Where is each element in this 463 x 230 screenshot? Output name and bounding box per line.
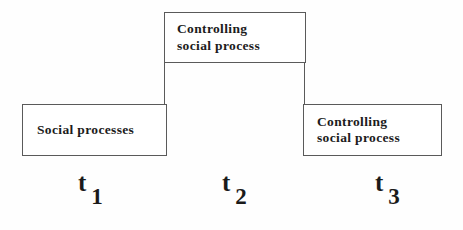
box-controlling-social-process-t2-label: Controlling social process bbox=[165, 21, 260, 54]
time-label-t2: t2 bbox=[222, 170, 242, 195]
time-label-t1: t1 bbox=[78, 170, 98, 195]
box-controlling-social-process-t2: Controlling social process bbox=[164, 12, 306, 63]
time-label-t1-base: t bbox=[78, 169, 86, 196]
connector-riser-left bbox=[164, 62, 165, 105]
process-step-diagram: Social processes Controlling social proc… bbox=[0, 0, 463, 230]
connector-riser-right bbox=[304, 62, 305, 105]
time-label-t1-subscript: 1 bbox=[91, 184, 103, 209]
box-social-processes-label: Social processes bbox=[23, 122, 134, 138]
time-label-t3: t3 bbox=[375, 170, 395, 195]
box-controlling-social-process-t3-label: Controlling social process bbox=[304, 114, 400, 147]
box-social-processes: Social processes bbox=[22, 104, 167, 156]
box-controlling-social-process-t3: Controlling social process bbox=[303, 104, 442, 156]
time-label-t2-base: t bbox=[222, 169, 230, 196]
time-label-t2-subscript: 2 bbox=[235, 184, 247, 209]
time-label-t3-base: t bbox=[375, 169, 383, 196]
time-label-t3-subscript: 3 bbox=[388, 184, 400, 209]
